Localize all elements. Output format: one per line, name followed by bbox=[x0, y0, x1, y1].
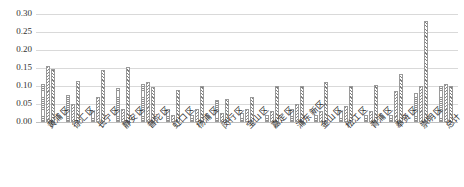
bar bbox=[419, 86, 423, 122]
y-tick-label: 0.25 bbox=[0, 27, 32, 36]
bar-group bbox=[36, 14, 61, 122]
y-tick-label: 0.15 bbox=[0, 63, 32, 72]
bar-chart: 0.000.050.100.150.200.250.30 黄浦区徐汇区长宁区静安… bbox=[0, 0, 464, 187]
bar bbox=[146, 82, 150, 122]
bars-layer bbox=[36, 14, 458, 122]
y-tick-label: 0.00 bbox=[0, 117, 32, 126]
bar bbox=[46, 66, 50, 122]
x-axis-labels: 黄浦区徐汇区长宁区静安区普陀区虹口区杨浦区闵行区宝山区嘉定区浦东新区金山区松江区… bbox=[36, 124, 458, 184]
bar bbox=[444, 84, 448, 122]
y-tick-label: 0.05 bbox=[0, 99, 32, 108]
bar bbox=[41, 84, 45, 122]
bar bbox=[424, 21, 428, 122]
plot-area bbox=[36, 14, 458, 122]
bar bbox=[439, 86, 443, 122]
y-tick-label: 0.30 bbox=[0, 9, 32, 18]
bar bbox=[116, 88, 120, 122]
y-tick-label: 0.10 bbox=[0, 81, 32, 90]
y-tick-label: 0.20 bbox=[0, 45, 32, 54]
